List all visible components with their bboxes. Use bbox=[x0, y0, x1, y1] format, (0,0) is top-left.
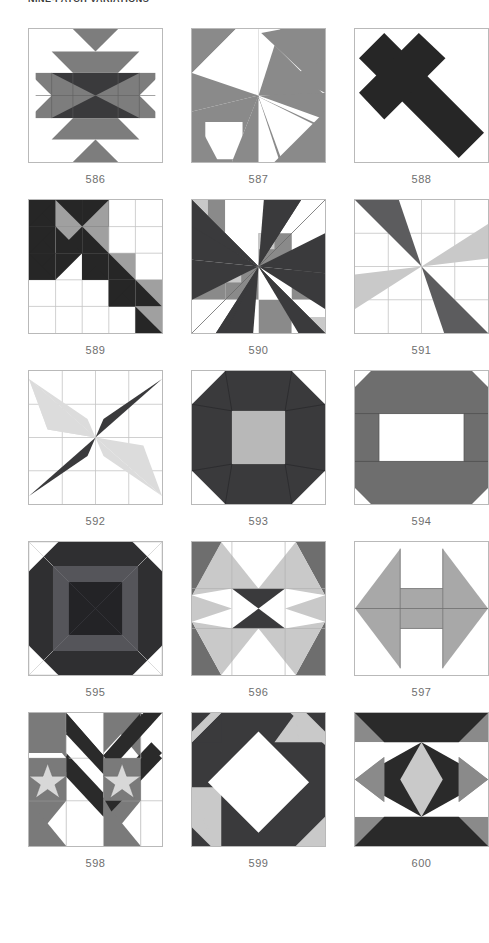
block-caption: 587 bbox=[191, 173, 326, 185]
block-cell[interactable]: 589 bbox=[28, 199, 163, 356]
block-588-figure[interactable] bbox=[354, 28, 489, 163]
block-caption: 590 bbox=[191, 344, 326, 356]
block-596-figure[interactable] bbox=[191, 541, 326, 676]
block-caption: 597 bbox=[354, 686, 489, 698]
block-caption: 592 bbox=[28, 515, 163, 527]
block-row: 598 bbox=[0, 712, 489, 869]
block-cell[interactable]: 595 bbox=[28, 541, 163, 698]
block-cell[interactable]: 587 bbox=[191, 28, 326, 185]
block-589-figure[interactable] bbox=[28, 199, 163, 334]
block-600-figure[interactable] bbox=[354, 712, 489, 847]
page-header: NINE-PATCH VARIATIONS bbox=[28, 0, 149, 4]
block-caption: 596 bbox=[191, 686, 326, 698]
block-595-figure[interactable] bbox=[28, 541, 163, 676]
block-caption: 599 bbox=[191, 857, 326, 869]
block-cell[interactable]: 590 bbox=[191, 199, 326, 356]
block-row: 595 bbox=[0, 541, 489, 698]
block-row: 586 bbox=[0, 28, 489, 185]
block-caption: 589 bbox=[28, 344, 163, 356]
block-cell[interactable]: 600 bbox=[354, 712, 489, 869]
block-592-figure[interactable] bbox=[28, 370, 163, 505]
block-cell[interactable]: 588 bbox=[354, 28, 489, 185]
block-cell[interactable]: 599 bbox=[191, 712, 326, 869]
block-cell[interactable]: 591 bbox=[354, 199, 489, 356]
block-caption: 588 bbox=[354, 173, 489, 185]
block-cell[interactable]: 592 bbox=[28, 370, 163, 527]
block-caption: 594 bbox=[354, 515, 489, 527]
block-594-figure[interactable] bbox=[354, 370, 489, 505]
block-caption: 591 bbox=[354, 344, 489, 356]
block-593-figure[interactable] bbox=[191, 370, 326, 505]
block-cell[interactable]: 597 bbox=[354, 541, 489, 698]
block-cell[interactable]: 598 bbox=[28, 712, 163, 869]
block-caption: 600 bbox=[354, 857, 489, 869]
block-597-figure[interactable] bbox=[354, 541, 489, 676]
block-caption: 598 bbox=[28, 857, 163, 869]
block-cell[interactable]: 596 bbox=[191, 541, 326, 698]
block-cell[interactable]: 586 bbox=[28, 28, 163, 185]
quilt-block-grid: 586 bbox=[0, 28, 489, 883]
block-590-figure[interactable] bbox=[191, 199, 326, 334]
block-599-figure[interactable] bbox=[191, 712, 326, 847]
block-cell[interactable]: 594 bbox=[354, 370, 489, 527]
block-587-figure[interactable] bbox=[191, 28, 326, 163]
block-591-figure[interactable] bbox=[354, 199, 489, 334]
block-598-figure[interactable] bbox=[28, 712, 163, 847]
block-caption: 586 bbox=[28, 173, 163, 185]
block-cell[interactable]: 593 bbox=[191, 370, 326, 527]
block-caption: 595 bbox=[28, 686, 163, 698]
block-row: 589 bbox=[0, 199, 489, 356]
block-row: 592 bbox=[0, 370, 489, 527]
block-586-figure[interactable] bbox=[28, 28, 163, 163]
block-caption: 593 bbox=[191, 515, 326, 527]
